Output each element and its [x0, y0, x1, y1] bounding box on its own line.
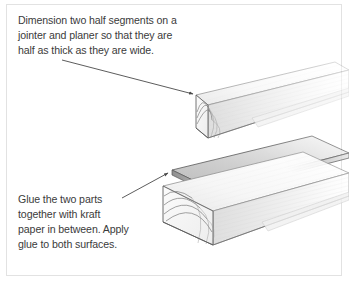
- upper-board: [196, 52, 349, 138]
- leader-line-top: [62, 60, 193, 94]
- caption-dimension-instruction: Dimension two half segments on a jointer…: [18, 13, 208, 58]
- leader-lines: [62, 60, 193, 198]
- figure-canvas: Dimension two half segments on a jointer…: [0, 0, 349, 282]
- caption-glue-instruction: Glue the two parts together with kraft p…: [18, 192, 173, 252]
